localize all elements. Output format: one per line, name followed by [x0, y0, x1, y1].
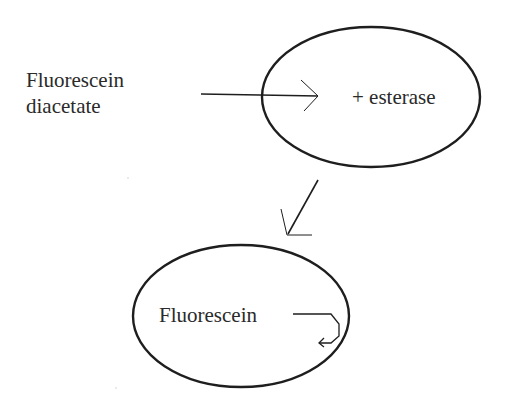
diagram-canvas: Fluorescein diacetate + esterase Fluores… — [0, 0, 505, 403]
scan-speck — [115, 387, 117, 389]
fluorescein-label: Fluorescein — [159, 303, 257, 327]
esterase-label: + esterase — [352, 85, 436, 109]
right-arrow-icon — [201, 80, 318, 111]
hook-arrow-icon — [293, 314, 339, 347]
scan-speck — [127, 177, 129, 179]
substrate-label-line1: Fluorescein — [26, 68, 124, 92]
down-left-arrow-icon — [281, 180, 318, 235]
substrate-label-line2: diacetate — [26, 94, 101, 118]
